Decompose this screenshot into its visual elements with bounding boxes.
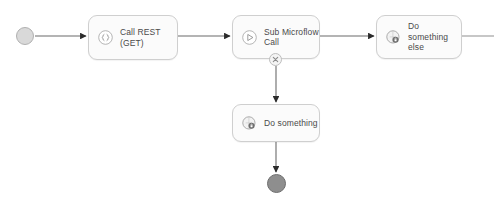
java-action-icon [241,115,258,132]
start-event[interactable] [16,27,34,45]
activity-label: Sub Microflow Call [264,27,319,48]
rest-call-icon [97,29,114,46]
microflow-call-icon [241,29,258,46]
java-action-icon [385,29,402,46]
activity-label: Do something else [408,21,461,53]
activity-call-rest-get[interactable]: Call REST (GET) [88,15,178,60]
end-event[interactable] [267,174,286,193]
error-boundary-marker[interactable] [269,53,282,66]
activity-label: Call REST (GET) [120,27,177,48]
activity-do-something-else[interactable]: Do something else [376,15,462,59]
activity-do-something[interactable]: Do something [232,104,320,142]
microflow-canvas[interactable]: Call REST (GET) Sub Microflow Call [0,0,494,202]
activity-label: Do something [264,118,318,129]
